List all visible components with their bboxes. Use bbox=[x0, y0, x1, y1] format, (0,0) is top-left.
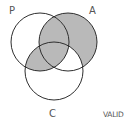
label-c: C bbox=[49, 108, 56, 119]
label-a: A bbox=[89, 5, 96, 16]
venn-diagram: P A C VALID bbox=[0, 0, 129, 123]
verdict-label: VALID bbox=[103, 110, 124, 119]
label-p: P bbox=[9, 5, 15, 16]
